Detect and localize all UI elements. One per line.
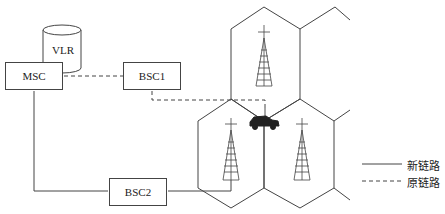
tower-icon-bottom-left (223, 118, 239, 180)
msc-label: MSC (22, 70, 45, 82)
vlr-label: VLR (52, 44, 74, 56)
tower-icon-top (256, 25, 272, 86)
tower-icon-bottom-right (294, 118, 310, 180)
old-link-bsc1-cell (152, 91, 265, 111)
bsc1-label: BSC1 (139, 70, 165, 82)
bsc2-label: BSC2 (125, 186, 151, 198)
network-diagram (0, 0, 445, 214)
legend (362, 164, 402, 181)
cell-top (231, 7, 300, 121)
msc-node: MSC (5, 62, 63, 90)
cell-bottom-right (264, 99, 334, 208)
car-icon (250, 108, 279, 130)
legend-new-link-label: 新链路 (407, 157, 440, 173)
legend-old-link-label: 原链路 (407, 174, 440, 190)
new-link-msc-bsc2 (34, 91, 108, 191)
bsc1-node: BSC1 (123, 62, 181, 90)
cell-hexagons (198, 7, 350, 208)
bsc2-node: BSC2 (109, 178, 167, 206)
